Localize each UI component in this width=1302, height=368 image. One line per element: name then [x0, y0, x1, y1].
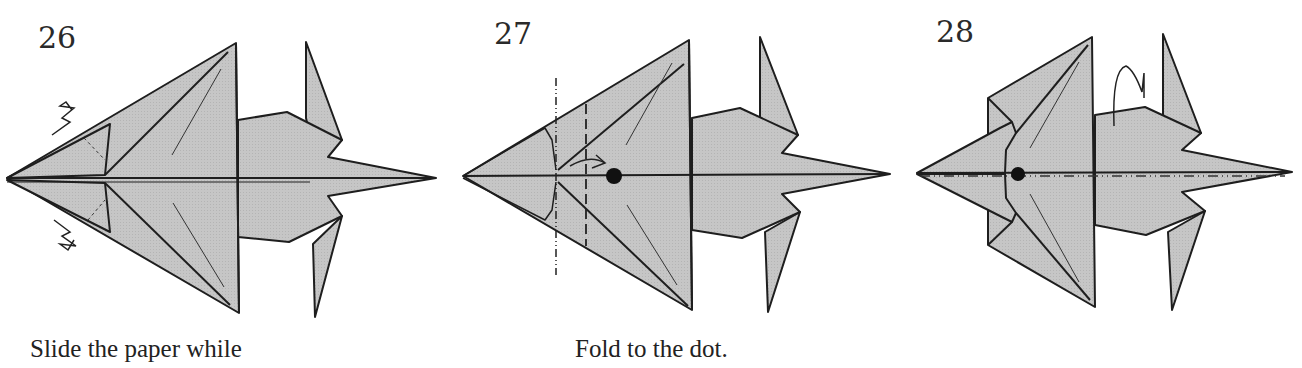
step-28: 28 — [900, 0, 1302, 368]
step-27: 27 Fold to the dot. — [450, 0, 900, 368]
step-number: 26 — [38, 20, 76, 55]
step-caption: Slide the paper while — [30, 335, 242, 363]
step-number: 28 — [936, 14, 974, 49]
step-caption: Fold to the dot. — [575, 335, 728, 363]
step-number: 27 — [494, 16, 532, 51]
step-26: 26 Slide the paper while — [0, 0, 450, 368]
